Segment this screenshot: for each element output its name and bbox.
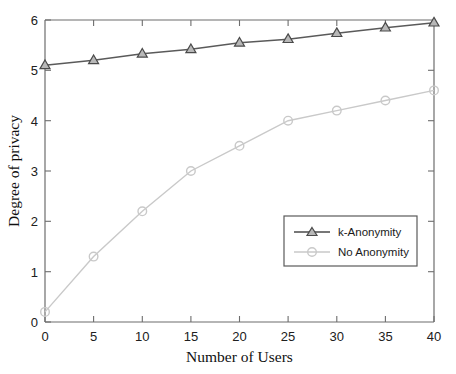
y-axis-title: Degree of privacy [5, 115, 22, 227]
y-tick-label: 1 [31, 265, 38, 280]
privacy-line-chart: 0 5 10 15 20 25 30 35 40 0 1 2 3 4 5 6 N… [0, 0, 456, 374]
x-tick-label: 25 [281, 329, 295, 344]
y-tick-label: 4 [31, 114, 38, 129]
chart-background [0, 0, 456, 374]
y-tick-label: 3 [31, 164, 38, 179]
x-axis-title: Number of Users [186, 348, 293, 365]
legend-label: No Anonymity [338, 246, 409, 258]
y-tick-label: 0 [31, 315, 38, 330]
y-tick-label: 2 [31, 214, 38, 229]
x-tick-label: 35 [378, 329, 392, 344]
legend-label: k-Anonymity [338, 226, 402, 238]
chart-legend[interactable]: k-Anonymity No Anonymity [284, 216, 417, 266]
x-tick-label: 0 [41, 329, 48, 344]
x-tick-label: 10 [135, 329, 149, 344]
y-tick-label: 5 [31, 63, 38, 78]
x-tick-label: 40 [427, 329, 441, 344]
legend-box [284, 216, 417, 266]
x-tick-label: 5 [90, 329, 97, 344]
x-tick-label: 15 [184, 329, 198, 344]
legend-entry-no-anonymity[interactable]: No Anonymity [294, 246, 409, 258]
x-tick-label: 20 [232, 329, 246, 344]
y-tick-label: 6 [31, 13, 38, 28]
chart-figure: 0 5 10 15 20 25 30 35 40 0 1 2 3 4 5 6 N… [0, 0, 456, 374]
x-tick-label: 30 [330, 329, 344, 344]
